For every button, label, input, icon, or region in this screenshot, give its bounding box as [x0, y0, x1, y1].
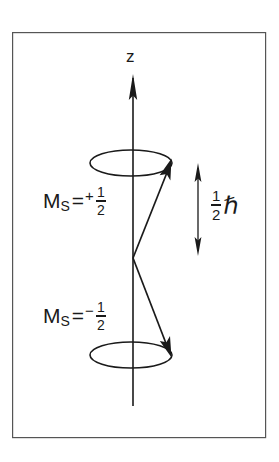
z-axis-label: z — [126, 48, 135, 65]
ms-subscript: S — [61, 199, 70, 213]
spin-up-vector — [133, 170, 168, 258]
fraction-numerator: 1 — [211, 188, 221, 204]
ms-minus-sign: − — [85, 303, 94, 318]
ms-negative-half-label: M S = − 1 2 — [43, 300, 106, 332]
fraction-denominator: 2 — [96, 317, 106, 332]
half-hbar-label: 1 2 ℏ — [209, 188, 239, 222]
fraction-numerator: 1 — [96, 300, 106, 315]
figure-border — [13, 33, 266, 438]
ms-symbol: M — [43, 305, 61, 326]
fraction-denominator: 2 — [211, 206, 221, 222]
lower-precession-circle — [90, 342, 172, 368]
one-half-fraction: 1 2 — [211, 188, 221, 222]
ms-positive-half-label: M S = + 1 2 — [43, 185, 106, 217]
one-half-fraction: 1 2 — [96, 300, 106, 332]
fraction-numerator: 1 — [96, 185, 106, 200]
fraction-denominator: 2 — [96, 202, 106, 217]
ms-equals-sign: = — [72, 305, 84, 326]
figure-canvas — [0, 0, 279, 462]
ms-subscript: S — [61, 314, 70, 328]
ms-symbol: M — [43, 190, 61, 211]
upper-precession-circle — [90, 150, 172, 176]
hbar-glyph: ℏ — [223, 194, 238, 218]
spin-vector-model-figure: z M S = + 1 2 M S = − 1 2 1 2 ℏ — [0, 0, 279, 462]
ms-equals-sign: = — [72, 190, 84, 211]
spin-down-vector — [133, 258, 167, 346]
ms-plus-sign: + — [85, 188, 94, 203]
one-half-fraction: 1 2 — [96, 185, 106, 217]
